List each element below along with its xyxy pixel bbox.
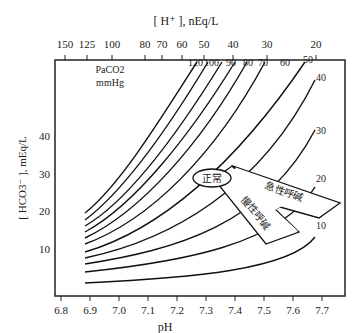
top-tick-label: 40 xyxy=(228,38,240,50)
top-tick-label: 70 xyxy=(157,38,169,50)
isobar-10 xyxy=(85,237,315,283)
x-tick-label: 6.9 xyxy=(83,304,97,316)
top-tick-label: 20 xyxy=(311,38,323,50)
isobar-label: 10 xyxy=(316,220,326,231)
x-tick-label: 7.6 xyxy=(286,304,300,316)
isobar-label: 30 xyxy=(316,125,326,136)
x-tick-label: 7.3 xyxy=(199,304,213,316)
x-tick-label: 7.1 xyxy=(141,304,155,316)
top-tick-label: 80 xyxy=(140,38,152,50)
y-tick-label: 30 xyxy=(39,168,51,180)
acid-base-nomogram: [ H⁺ ], nEq/L 150 125 100 80 70 60 50 40… xyxy=(0,0,364,333)
y-tick-label: 20 xyxy=(39,205,51,217)
isobar-label: 70 xyxy=(258,57,268,68)
isobar-label: 80 xyxy=(243,57,253,68)
isobar-label: 20 xyxy=(316,173,326,184)
y-axis-label: [ HCO3⁻ ], mEq/L xyxy=(16,136,28,220)
isobar-label: 120 xyxy=(188,57,203,68)
y-tick-label: 40 xyxy=(39,130,51,142)
x-tick-label: 7.4 xyxy=(228,304,242,316)
y-tick-label: 10 xyxy=(39,243,51,255)
x-tick-label: 7.5 xyxy=(257,304,271,316)
normal-region-label: 正常 xyxy=(202,172,222,184)
isobar-label: 100 xyxy=(204,57,219,68)
top-tick-label: 150 xyxy=(57,38,74,50)
top-tick-label: 50 xyxy=(199,38,211,50)
x-tick-label: 6.8 xyxy=(54,304,68,316)
isobar-label: 40 xyxy=(316,72,326,83)
isobar-unit: mmHg xyxy=(96,77,124,88)
top-tick-label: 125 xyxy=(79,38,96,50)
x-axis-label: pH xyxy=(158,320,173,333)
top-axis-label: [ H⁺ ], nEq/L xyxy=(154,14,219,28)
x-tick-label: 7.7 xyxy=(315,304,329,316)
isobar-label: 60 xyxy=(280,57,290,68)
top-tick-label: 100 xyxy=(104,38,121,50)
isobar-title: PaCO2 xyxy=(96,64,125,75)
x-tick-label: 7.2 xyxy=(170,304,184,316)
isobar-label: 90 xyxy=(226,57,236,68)
top-tick-label: 60 xyxy=(177,38,189,50)
top-tick-label: 30 xyxy=(262,38,274,50)
isobar-60 xyxy=(85,62,265,244)
isobar-label: 50 xyxy=(303,54,313,65)
x-tick-label: 7.0 xyxy=(112,304,126,316)
